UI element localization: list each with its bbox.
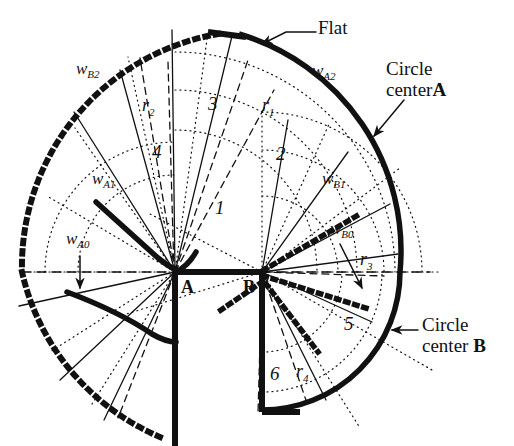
w-b1-sub: B1 [333, 178, 345, 190]
label-r1: r1 [262, 96, 275, 118]
label-circle-center-b: Circle center B [422, 314, 486, 357]
r2-base: r [142, 95, 149, 115]
construction-arcs-center-b [262, 112, 422, 392]
label-circle-center-a: Circle centerA [386, 58, 446, 101]
leader-wb0 [340, 244, 362, 288]
leader-flat [262, 32, 316, 44]
label-w-b0: wB0 [330, 220, 354, 240]
w-b1-base: w [322, 169, 333, 188]
w-a0-base: w [66, 229, 77, 248]
circle-center-b-line2: center [422, 335, 468, 356]
region-number-3: 3 [208, 94, 218, 113]
point-label-b: B [243, 278, 255, 296]
r3-sub: 3 [367, 260, 373, 272]
region-number-1: 1 [215, 198, 225, 217]
wa1-line [96, 202, 176, 270]
label-w-b1: wB1 [322, 170, 346, 190]
label-r2: r2 [142, 96, 155, 118]
r4-base: r [296, 361, 303, 381]
region-number-2: 2 [276, 144, 286, 163]
circle-center-b-point: B [473, 335, 486, 356]
w-b2-sub: B2 [87, 68, 99, 80]
circle-center-a-line1: Circle [386, 58, 432, 79]
circle-center-a-point: A [432, 79, 446, 100]
figure-canvas: Flat Circle centerA Circle center B A B … [0, 0, 514, 446]
w-a2-base: w [312, 61, 323, 80]
point-label-a: A [181, 278, 194, 296]
label-w-a1: wA1 [92, 170, 116, 190]
circle-center-b-line1: Circle [422, 314, 468, 335]
w-b2-base: w [76, 59, 87, 78]
label-r3: r3 [360, 250, 373, 272]
w-a0-sub: A0 [77, 238, 89, 250]
leader-circle-center-a [374, 100, 404, 136]
r1-sub: 1 [269, 106, 275, 118]
w-a1-sub: A1 [103, 178, 115, 190]
wa0-curve [67, 292, 176, 342]
w-a1-base: w [92, 169, 103, 188]
region-number-5: 5 [344, 314, 354, 333]
r2-sub: 2 [149, 106, 155, 118]
label-w-a2: wA2 [312, 62, 336, 82]
wb-left-line [218, 282, 262, 312]
circle-center-b-arc [262, 272, 400, 410]
w-b0-sub: B0 [341, 228, 353, 240]
circle-center-a-line2: center [386, 79, 432, 100]
w-a2-sub: A2 [323, 70, 335, 82]
r1-base: r [262, 95, 269, 115]
label-w-b2: wB2 [76, 60, 100, 80]
wb2-outer-arc [22, 34, 218, 437]
region-number-4: 4 [152, 142, 162, 161]
region-number-6: 6 [270, 364, 280, 383]
r3-base: r [360, 249, 367, 269]
w-b0-base: w [330, 219, 341, 238]
label-r4: r4 [296, 362, 309, 384]
label-flat: Flat [318, 18, 348, 37]
r4-sub: 4 [303, 372, 309, 384]
label-w-a0: wA0 [66, 230, 90, 250]
